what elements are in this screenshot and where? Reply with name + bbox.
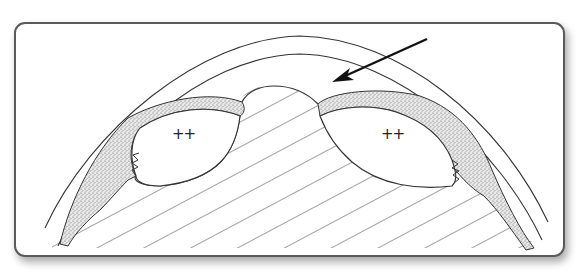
right-region-label: ++ [381, 127, 404, 142]
diagram-canvas [0, 0, 579, 277]
left-region-label: ++ [172, 127, 195, 142]
